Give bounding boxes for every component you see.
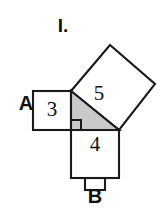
figure-title: I.	[58, 15, 69, 36]
figure-root: 3 4 5 A B I.	[0, 0, 166, 217]
square-b-number: 4	[90, 132, 101, 156]
square-c-number: 5	[94, 81, 105, 105]
side-label-b: B	[88, 185, 102, 207]
side-label-a: A	[19, 92, 33, 114]
square-a-number: 3	[47, 97, 58, 121]
pythagorean-diagram: 3 4 5 A B I.	[0, 0, 166, 217]
